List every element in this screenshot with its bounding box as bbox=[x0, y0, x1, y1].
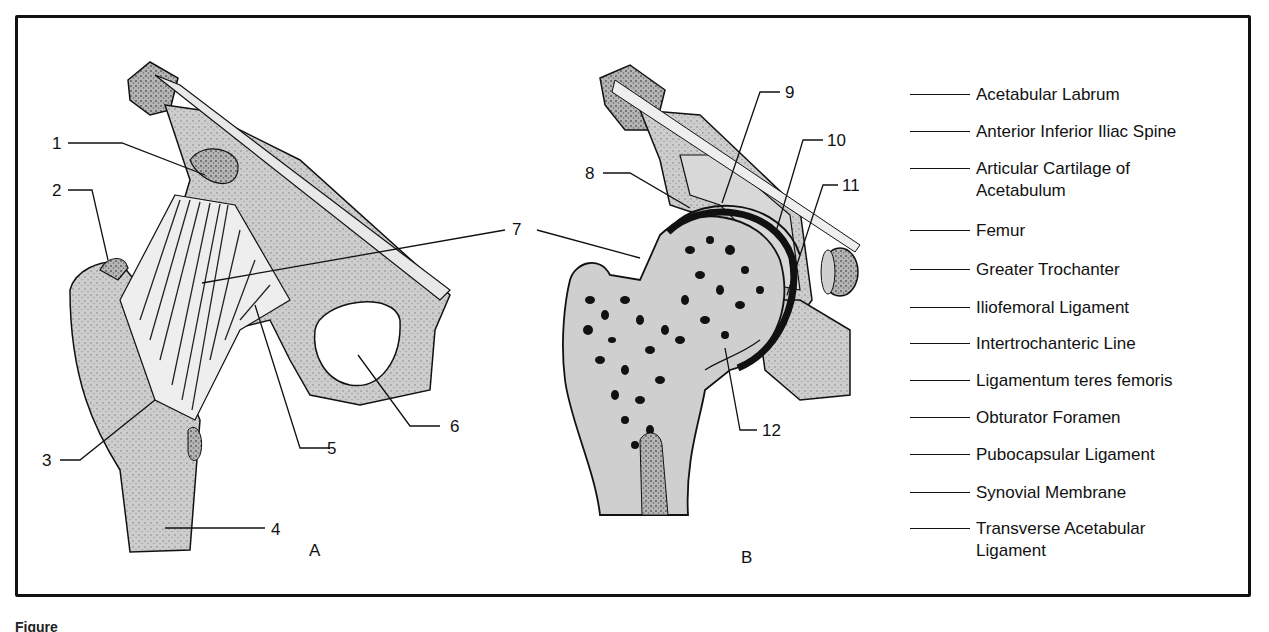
legend-item: Anterior Inferior Iliac Spine bbox=[910, 121, 1226, 143]
blank-line bbox=[910, 492, 970, 493]
legend-item: Obturator Foramen bbox=[910, 407, 1226, 429]
callout-6: 6 bbox=[450, 417, 459, 436]
blank-line bbox=[910, 380, 970, 381]
legend-item: Intertrochanteric Line bbox=[910, 333, 1226, 355]
legend-label: Intertrochanteric Line bbox=[976, 333, 1226, 355]
legend-item: Articular Cartilage of Acetabulum bbox=[910, 158, 1226, 202]
legend-label: Femur bbox=[976, 220, 1226, 242]
blank-line bbox=[910, 417, 970, 418]
callout-3: 3 bbox=[42, 451, 51, 470]
figure-caption-partial: Figure bbox=[15, 619, 58, 632]
legend-label: Transverse Acetabular Ligament bbox=[976, 518, 1226, 562]
legend-label: Synovial Membrane bbox=[976, 482, 1226, 504]
legend-label: Anterior Inferior Iliac Spine bbox=[976, 121, 1226, 143]
legend-label: Pubocapsular Ligament bbox=[976, 444, 1226, 466]
panel-label-b: B bbox=[741, 548, 752, 567]
legend-label: Ligamentum teres femoris bbox=[976, 370, 1226, 392]
panel-b-drawing: 8 9 10 11 12 B bbox=[537, 65, 860, 567]
blank-line bbox=[910, 94, 970, 95]
legend-item: Transverse Acetabular Ligament bbox=[910, 518, 1226, 562]
callout-2: 2 bbox=[52, 181, 61, 200]
callout-9: 9 bbox=[785, 83, 794, 102]
legend-item: Ligamentum teres femoris bbox=[910, 370, 1226, 392]
legend-label: Obturator Foramen bbox=[976, 407, 1226, 429]
blank-line bbox=[910, 230, 970, 231]
legend-item: Pubocapsular Ligament bbox=[910, 444, 1226, 466]
blank-line bbox=[910, 168, 970, 169]
callout-1: 1 bbox=[52, 134, 61, 153]
callout-11: 11 bbox=[842, 176, 860, 195]
legend-item: Acetabular Labrum bbox=[910, 84, 1226, 106]
callout-4: 4 bbox=[271, 520, 280, 539]
blank-line bbox=[910, 269, 970, 270]
blank-line bbox=[910, 528, 970, 529]
blank-line bbox=[910, 131, 970, 132]
legend-label: Iliofemoral Ligament bbox=[976, 297, 1226, 319]
callout-8: 8 bbox=[585, 164, 594, 183]
panel-label-a: A bbox=[309, 541, 321, 560]
callout-5: 5 bbox=[327, 439, 336, 458]
blank-line bbox=[910, 307, 970, 308]
callout-12: 12 bbox=[762, 421, 781, 440]
legend-label: Acetabular Labrum bbox=[976, 84, 1226, 106]
legend-item: Iliofemoral Ligament bbox=[910, 297, 1226, 319]
legend-label: Articular Cartilage of Acetabulum bbox=[976, 158, 1226, 202]
callout-7: 7 bbox=[512, 220, 521, 239]
legend-item: Femur bbox=[910, 220, 1226, 242]
legend-item: Greater Trochanter bbox=[910, 259, 1226, 281]
callout-10: 10 bbox=[827, 131, 846, 150]
legend-item: Synovial Membrane bbox=[910, 482, 1226, 504]
panel-a-drawing: 1 2 3 4 5 6 A bbox=[42, 62, 505, 560]
legend-label: Greater Trochanter bbox=[976, 259, 1226, 281]
blank-line bbox=[910, 343, 970, 344]
blank-line bbox=[910, 454, 970, 455]
